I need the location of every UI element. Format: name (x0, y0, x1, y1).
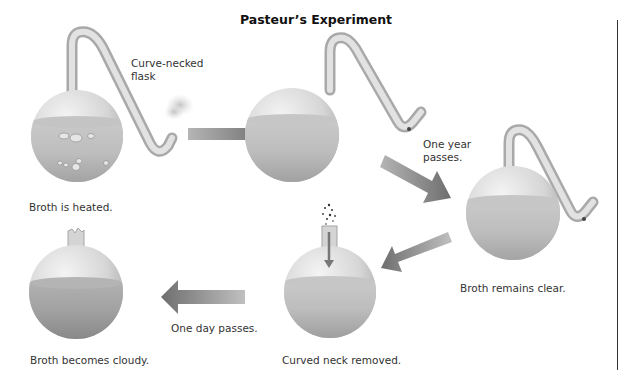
flask-4-neck-removed (280, 204, 380, 342)
diagram-artwork (0, 0, 632, 374)
flask-1-heated (28, 32, 194, 192)
diagram-title-text: Pasteur’s Experiment (240, 12, 392, 27)
flask-3-clear (460, 130, 593, 271)
label-broth-becomes-cloudy: Broth becomes cloudy. (30, 354, 149, 367)
label-one-day-passes: One day passes. (171, 322, 258, 335)
label-curve-necked-line1: Curve-necked (131, 57, 204, 70)
label-curved-neck-removed: Curved neck removed. (282, 354, 401, 367)
label-curve-necked-line2: flask (131, 70, 204, 83)
diagram-title: Pasteur’s Experiment (0, 12, 632, 27)
label-one-year-passes: One year passes. (423, 138, 471, 164)
arrow-down-left (381, 232, 452, 272)
label-broth-heated: Broth is heated. (29, 201, 113, 214)
flask-5-cloudy (25, 228, 130, 343)
page-divider-line (617, 20, 618, 370)
label-broth-remains-clear: Broth remains clear. (460, 282, 566, 295)
label-curve-necked-flask: Curve-necked flask (131, 57, 204, 83)
airborne-microbes (322, 204, 336, 225)
label-one-year-line1: One year (423, 138, 471, 151)
arrow-left (161, 280, 245, 314)
trapped-microbes (407, 127, 411, 131)
label-one-year-line2: passes. (423, 151, 471, 164)
